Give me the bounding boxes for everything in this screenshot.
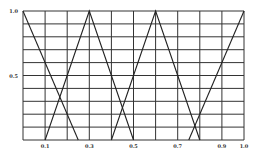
x-tick-label: 0.9 (218, 143, 227, 149)
y-axis-tick-labels: 0.51.0 (9, 8, 18, 79)
x-axis-tick-labels: 0.10.30.50.70.91.0 (41, 143, 249, 149)
x-tick-label: 1.0 (240, 143, 249, 149)
x-tick-label: 0.1 (41, 143, 50, 149)
membership-function-chart: 0.10.30.50.70.91.0 0.51.0 (0, 0, 258, 157)
x-tick-label: 0.7 (173, 143, 182, 149)
x-tick-label: 0.5 (129, 143, 138, 149)
y-tick-label: 1.0 (9, 8, 18, 14)
y-tick-label: 0.5 (9, 73, 18, 79)
x-tick-label: 0.3 (85, 143, 94, 149)
